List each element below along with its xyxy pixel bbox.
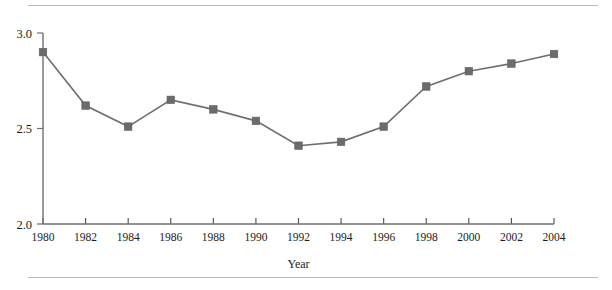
y-tick-label: 3.0 bbox=[16, 27, 32, 41]
data-point-marker bbox=[124, 123, 132, 131]
x-tick-label: 1986 bbox=[159, 231, 182, 243]
x-tick-label: 1996 bbox=[372, 231, 395, 243]
x-tick-label: 2000 bbox=[457, 231, 480, 243]
x-tick-label: 1998 bbox=[415, 231, 438, 243]
data-point-marker bbox=[39, 48, 47, 56]
data-point-marker bbox=[508, 60, 516, 67]
data-point-marker bbox=[423, 83, 431, 91]
x-axis-tick-labels: 1980198219841986198819901992199419961998… bbox=[32, 231, 566, 243]
y-tick-label: 2.0 bbox=[16, 218, 32, 232]
x-tick-label: 2004 bbox=[543, 231, 566, 243]
data-point-marker bbox=[82, 102, 90, 110]
data-point-marker bbox=[337, 138, 345, 146]
x-tick-label: 1980 bbox=[32, 231, 55, 243]
x-axis-tick-marks bbox=[43, 218, 554, 224]
data-series-line bbox=[43, 52, 554, 146]
x-tick-label: 1984 bbox=[117, 231, 140, 243]
data-point-marker bbox=[252, 117, 259, 125]
y-axis-tick-marks bbox=[37, 33, 43, 224]
x-tick-label: 2002 bbox=[500, 231, 523, 243]
x-tick-label: 1988 bbox=[202, 231, 225, 243]
data-point-marker bbox=[210, 106, 218, 114]
x-tick-label: 1992 bbox=[287, 231, 310, 243]
data-point-marker bbox=[167, 96, 175, 104]
x-axis-title: Year bbox=[287, 257, 309, 271]
x-tick-label: 1982 bbox=[74, 231, 97, 243]
line-chart: 2.02.53.0 198019821984198619881990199219… bbox=[0, 0, 612, 290]
data-point-marker bbox=[550, 50, 558, 58]
data-point-marker bbox=[380, 123, 388, 131]
x-tick-label: 1994 bbox=[330, 231, 353, 243]
data-point-marker bbox=[295, 142, 303, 150]
data-point-marker bbox=[465, 67, 473, 75]
y-tick-label: 2.5 bbox=[16, 122, 32, 136]
figure-container: 2.02.53.0 198019821984198619881990199219… bbox=[0, 0, 612, 290]
x-tick-label: 1990 bbox=[244, 231, 267, 243]
y-axis-tick-labels: 2.02.53.0 bbox=[16, 27, 32, 232]
data-point-markers bbox=[39, 48, 558, 149]
